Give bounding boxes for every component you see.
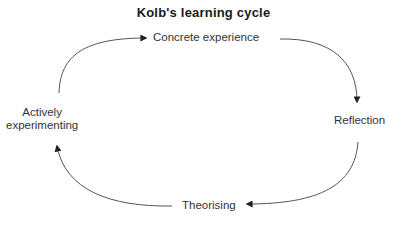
arrow-reflection-to-theorising [247, 142, 358, 204]
stage-active-line1: Actively [6, 106, 78, 119]
stage-theorising: Theorising [182, 199, 236, 211]
arrow-concrete-to-reflection [280, 39, 357, 102]
stage-actively-experimenting: Actively experimenting [6, 106, 78, 132]
arrow-theorising-to-active [57, 146, 172, 206]
stage-concrete-experience: Concrete experience [153, 31, 259, 43]
stage-reflection: Reflection [334, 114, 385, 126]
arrow-active-to-concrete [59, 38, 146, 93]
stage-active-line2: experimenting [6, 119, 78, 132]
